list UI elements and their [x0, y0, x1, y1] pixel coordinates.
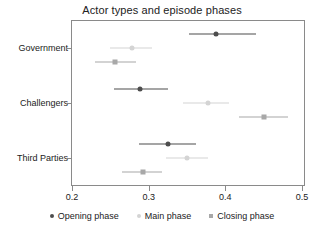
x-axis-tick-label: 0.5: [296, 192, 309, 202]
data-point-marker: [214, 31, 219, 36]
legend-marker-icon: [209, 214, 213, 218]
x-axis-tick: [302, 186, 303, 191]
data-point-marker: [112, 59, 117, 64]
data-point-marker: [165, 142, 170, 147]
y-axis-category-label: Third Parties: [0, 153, 68, 163]
data-point-marker: [185, 156, 190, 161]
y-axis-tick: [66, 158, 71, 159]
chart-legend: Opening phaseMain phaseClosing phase: [0, 211, 324, 221]
data-point-marker: [138, 87, 143, 92]
x-axis-tick-label: 0.4: [219, 192, 232, 202]
data-point-marker: [262, 115, 267, 120]
legend-label: Closing phase: [217, 211, 274, 221]
legend-item[interactable]: Opening phase: [50, 211, 119, 221]
y-axis-tick: [66, 48, 71, 49]
x-axis-tick-label: 0.2: [66, 192, 79, 202]
legend-item[interactable]: Closing phase: [209, 211, 274, 221]
y-axis-tick: [66, 103, 71, 104]
legend-label: Opening phase: [58, 211, 119, 221]
legend-marker-icon: [137, 214, 141, 218]
legend-marker-icon: [50, 214, 54, 218]
data-point-marker: [205, 101, 210, 106]
x-axis-tick: [72, 186, 73, 191]
x-axis-tick: [225, 186, 226, 191]
y-axis-category-label: Government: [0, 43, 68, 53]
legend-label: Main phase: [145, 211, 192, 221]
data-point-marker: [140, 170, 145, 175]
legend-item[interactable]: Main phase: [137, 211, 192, 221]
chart-container: Actor types and episode phases Governmen…: [0, 0, 324, 236]
chart-title: Actor types and episode phases: [0, 4, 324, 16]
error-bar: [189, 33, 256, 34]
x-axis-tick: [149, 186, 150, 191]
data-point-marker: [129, 45, 134, 50]
y-axis-category-label: Challengers: [0, 98, 68, 108]
x-axis-tick-label: 0.3: [142, 192, 155, 202]
